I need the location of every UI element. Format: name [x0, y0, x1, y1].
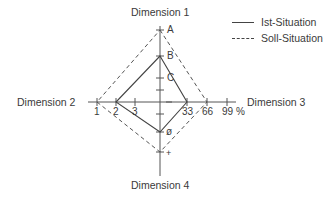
- solid-line-icon: [232, 22, 254, 23]
- soll-situation-polygon: [97, 30, 207, 152]
- tick-label-99: 99 %: [222, 106, 245, 117]
- tick-label-2: 2: [113, 106, 119, 117]
- tick-label-plus: +: [166, 148, 171, 158]
- legend-label-soll: Soll-Situation: [261, 32, 323, 44]
- legend-label-ist: Ist-Situation: [261, 16, 316, 28]
- tick-label-c: C: [167, 72, 174, 83]
- axis-label-dimension-2: Dimension 2: [17, 96, 75, 108]
- dashed-line-icon: [232, 38, 254, 39]
- legend: Ist-Situation Soll-Situation: [232, 14, 323, 46]
- tick-label-3: 3: [132, 106, 138, 117]
- tick-label-33: 33: [182, 106, 193, 117]
- tick-label-66: 66: [202, 106, 213, 117]
- axis-label-dimension-1: Dimension 1: [131, 6, 189, 18]
- axis-label-dimension-4: Dimension 4: [131, 179, 189, 191]
- tick-label-a: A: [167, 24, 174, 35]
- legend-item-ist: Ist-Situation: [232, 14, 323, 30]
- tick-label-oe: ø: [166, 126, 172, 137]
- tick-label-b: B: [167, 50, 174, 61]
- legend-item-soll: Soll-Situation: [232, 30, 323, 46]
- axis-label-dimension-3: Dimension 3: [247, 96, 305, 108]
- tick-label-1: 1: [94, 106, 100, 117]
